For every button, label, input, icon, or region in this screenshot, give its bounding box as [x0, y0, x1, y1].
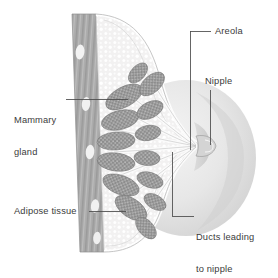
label-mammary-gland-line1: Mammary	[14, 115, 56, 126]
label-areola: Areola	[215, 26, 243, 37]
label-adipose-tissue: Adipose tissue	[14, 206, 77, 217]
label-ducts-leading-to-nipple: Ducts leading to nipple	[196, 211, 254, 278]
label-ducts-line1: Ducts leading	[196, 232, 254, 243]
label-nipple: Nipple	[205, 76, 232, 87]
label-mammary-gland: Mammary gland	[14, 94, 56, 179]
label-ducts-line2: to nipple	[196, 264, 254, 275]
label-mammary-gland-line2: gland	[14, 147, 56, 158]
